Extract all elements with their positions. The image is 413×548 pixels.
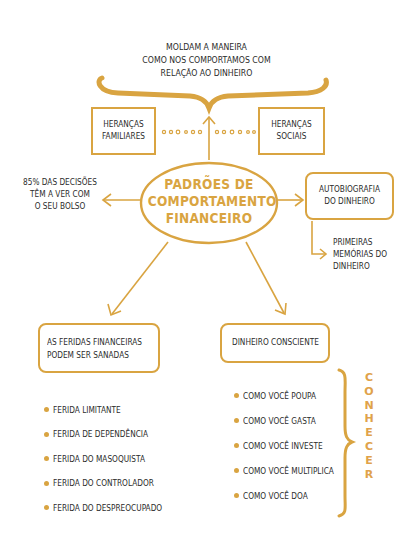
bullet-dot-icon	[44, 432, 49, 437]
bullet-dot-icon	[44, 505, 49, 510]
arrow-up-icon	[203, 117, 215, 160]
vertical-letter: O	[362, 385, 376, 399]
bullet-dot-icon	[234, 468, 239, 473]
autobiography-sub-line: DINHEIRO	[333, 260, 387, 272]
wounds-box: AS FERIDAS FINANCEIRAS PODEM SER SANADAS	[38, 323, 160, 373]
bullet-dot-icon	[234, 393, 239, 398]
heritage-social-box: HERANÇAS SOCIAIS	[258, 107, 325, 155]
heritage-family-line: HERANÇAS	[98, 118, 148, 130]
list-item: COMO VOCÊ INVESTE	[234, 436, 354, 461]
heritage-family-box: HERANÇAS FAMILIARES	[91, 107, 156, 155]
vertical-letter: E	[362, 454, 376, 468]
bullet-dot-icon	[44, 456, 49, 461]
diagonal-arrow-icon	[246, 242, 286, 314]
autobiography-box: AUTOBIOGRAFIA DO DINHEIRO	[305, 172, 394, 220]
wounds-box-line: AS FERIDAS FINANCEIRAS	[47, 336, 138, 349]
list-item: COMO VOCÊ MULTIPLICA	[234, 461, 354, 486]
autobiography-sub: PRIMEIRAS MEMÓRIAS DO DINHEIRO	[333, 236, 399, 272]
vertical-letter: E	[362, 426, 376, 440]
arrow-left-icon	[103, 194, 140, 206]
vertical-letter: R	[362, 468, 376, 482]
wounds-list: FERIDA LIMITANTE FERIDA DE DEPENDÊNCIA F…	[44, 400, 186, 523]
vertical-letter: N	[362, 399, 376, 413]
center-node-line: PADRÕES DE	[148, 176, 270, 193]
conscious-money-box: DINHEIRO CONSCIENTE	[220, 323, 330, 363]
elbow-arrow-icon	[312, 221, 326, 259]
vertical-word-conhecer: C O N H E C E R	[362, 371, 376, 481]
left-note-line: 85% DAS DECISÕES	[22, 176, 97, 188]
list-item: FERIDA DE DEPENDÊNCIA	[44, 425, 186, 450]
list-item: COMO VOCÊ POUPA	[234, 386, 354, 411]
diagonal-arrow-icon	[108, 242, 168, 315]
left-note-line: TÊM A VER COM	[22, 188, 97, 200]
left-note-line: O SEU BOLSO	[22, 200, 97, 212]
center-node-line: COMPORTAMENTO	[148, 193, 270, 210]
curly-brace-icon	[99, 78, 326, 108]
autobiography-sub-line: MEMÓRIAS DO	[333, 248, 387, 260]
top-caption-line: RELAÇÃO AO DINHEIRO	[37, 66, 376, 79]
center-node-line: FINANCEIRO	[148, 210, 270, 227]
top-caption-line: MOLDAM A MANEIRA	[37, 40, 376, 53]
top-caption: MOLDAM A MANEIRA COMO NOS COMPORTAMOS CO…	[0, 40, 413, 79]
bullet-dot-icon	[44, 481, 49, 486]
bullet-dot-icon	[44, 407, 49, 412]
conscious-list: COMO VOCÊ POUPA COMO VOCÊ GASTA COMO VOC…	[234, 386, 354, 511]
center-node: PADRÕES DE COMPORTAMENTO FINANCEIRO	[141, 176, 277, 227]
list-item: FERIDA DO CONTROLADOR	[44, 474, 186, 499]
heritage-social-line: HERANÇAS	[266, 118, 318, 130]
top-caption-line: COMO NOS COMPORTAMOS COM	[37, 53, 376, 66]
autobiography-line: DO DINHEIRO	[315, 195, 385, 207]
heritage-social-line: SOCIAIS	[266, 130, 318, 142]
bullet-dot-icon	[234, 443, 239, 448]
list-item: COMO VOCÊ DOA	[234, 486, 354, 511]
heritage-family-line: FAMILIARES	[98, 130, 148, 142]
list-item: FERIDA LIMITANTE	[44, 400, 186, 425]
left-note: 85% DAS DECISÕES TÊM A VER COM O SEU BOL…	[14, 176, 106, 212]
bullet-dot-icon	[234, 418, 239, 423]
autobiography-sub-line: PRIMEIRAS	[333, 236, 387, 248]
vertical-letter: C	[362, 440, 376, 454]
wounds-box-line: PODEM SER SANADAS	[47, 349, 138, 362]
list-item: COMO VOCÊ GASTA	[234, 411, 354, 436]
list-item: FERIDA DO MASOQUISTA	[44, 449, 186, 474]
bullet-dot-icon	[234, 493, 239, 498]
vertical-letter: H	[362, 412, 376, 426]
conscious-money-label: DINHEIRO CONSCIENTE	[232, 336, 311, 348]
autobiography-line: AUTOBIOGRAFIA	[315, 183, 385, 195]
list-item: FERIDA DO DESPREOCUPADO	[44, 498, 186, 523]
vertical-letter: C	[362, 371, 376, 385]
arrow-right-icon	[278, 194, 303, 206]
